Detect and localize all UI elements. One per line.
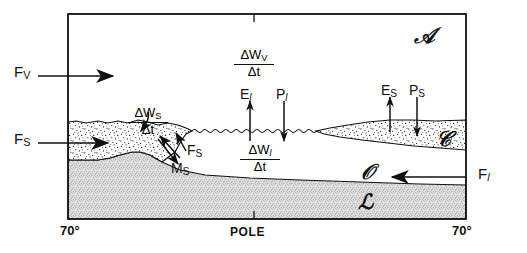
label-m-s: MS (171, 160, 189, 177)
storage-term-snow: ΔWS Δt (116, 106, 180, 136)
axis-label-left: 70° (60, 223, 80, 238)
label-p-l: Pl (276, 86, 288, 103)
label-f-v: FV (14, 63, 30, 81)
domain-label-atmosphere: 𝒜 (414, 23, 435, 49)
label-f-s-inner: FS (187, 142, 202, 159)
axis-label-pole: POLE (230, 225, 265, 239)
label-e-l: El (240, 86, 252, 103)
label-p-s: PS (409, 82, 425, 99)
storage-term-liquid: ΔWl Δt (228, 143, 292, 173)
domain-label-ocean: 𝒪 (361, 160, 374, 185)
label-f-s-left: FS (14, 130, 30, 148)
label-f-l: Fl (478, 165, 490, 183)
storage-term-vapor: ΔWV Δt (222, 48, 286, 78)
axis-label-right: 70° (452, 223, 472, 238)
domain-label-cryosphere: 𝒞 (436, 127, 451, 152)
domain-label-land: ℒ (358, 190, 373, 215)
label-e-s: ES (381, 82, 397, 99)
ocean-surface-wave (192, 130, 317, 133)
